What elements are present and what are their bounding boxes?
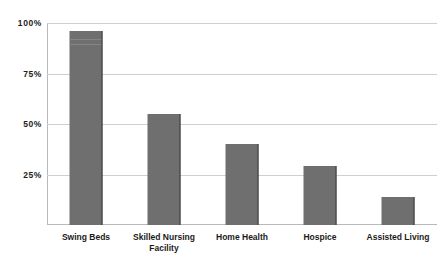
bar-swing-beds[interactable] [70, 31, 103, 225]
bar-slot-home-health [203, 23, 281, 225]
bars-layer [47, 23, 437, 225]
x-tick-label-home-health: Home Health [203, 232, 281, 243]
bar-assisted-living[interactable] [382, 197, 415, 225]
bar-skilled-nursing-facility[interactable] [148, 114, 181, 225]
y-tick-label-50: 50% [0, 119, 42, 129]
x-axis-tick-labels: Swing Beds Skilled Nursing Facility Home… [47, 232, 437, 266]
bar-slot-swing-beds [47, 23, 125, 225]
x-tick-label-skilled-nursing-facility: Skilled Nursing Facility [121, 232, 207, 254]
bar-slot-skilled-nursing-facility [125, 23, 203, 225]
x-tick-label-hospice: Hospice [281, 232, 359, 243]
y-tick-label-100: 100% [0, 18, 42, 28]
bar-seam [70, 39, 102, 40]
bar-hospice[interactable] [304, 166, 337, 225]
y-tick-label-75: 75% [0, 69, 42, 79]
bar-slot-hospice [281, 23, 359, 225]
x-tick-label-assisted-living: Assisted Living [355, 232, 441, 243]
y-tick-label-25: 25% [0, 170, 42, 180]
bar-home-health[interactable] [226, 144, 259, 225]
x-tick-label-swing-beds: Swing Beds [47, 232, 125, 243]
bar-chart: 100% 75% 50% 25% [0, 0, 442, 268]
plot-area [47, 23, 437, 225]
bar-slot-assisted-living [359, 23, 437, 225]
bar-seam [70, 44, 102, 45]
